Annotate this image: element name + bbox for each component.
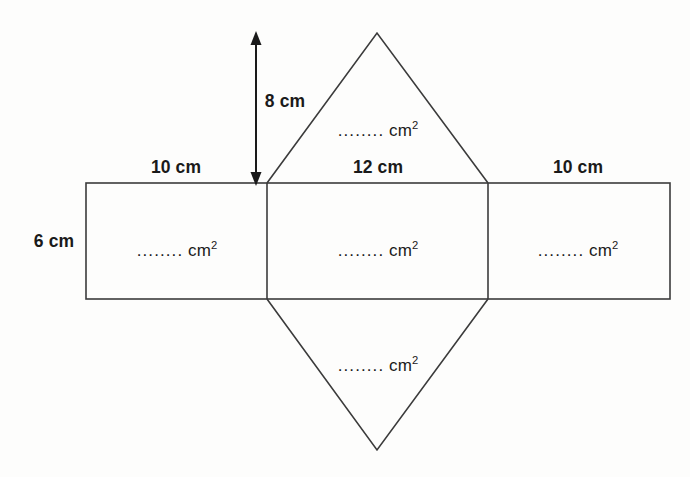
area-placeholder-right-rectangle: ........ cm2 xyxy=(538,242,619,259)
unit-left-rectangle: cm xyxy=(188,241,211,260)
label-middle-rectangle-width-12cm: 12 cm xyxy=(353,159,403,177)
area-placeholder-left-rectangle: ........ cm2 xyxy=(137,242,218,259)
label-right-rectangle-width-10cm: 10 cm xyxy=(553,159,603,177)
label-left-rectangle-width-10cm: 10 cm xyxy=(151,159,201,177)
dots-right-rectangle: ........ xyxy=(538,241,585,260)
height-dimension-arrow xyxy=(251,31,262,186)
exponent-middle-rectangle: 2 xyxy=(412,239,418,251)
diagram-canvas: 8 cm 10 cm 12 cm 10 cm 6 cm ........ cm2… xyxy=(0,0,690,477)
dots-top-triangle: ........ xyxy=(338,121,385,140)
area-placeholder-top-triangle: ........ cm2 xyxy=(338,122,419,139)
unit-bottom-triangle: cm xyxy=(389,356,412,375)
dots-left-rectangle: ........ xyxy=(137,241,184,260)
bottom-triangle-outline xyxy=(267,299,488,450)
exponent-right-rectangle: 2 xyxy=(612,239,618,251)
area-placeholder-bottom-triangle: ........ cm2 xyxy=(338,357,419,374)
exponent-bottom-triangle: 2 xyxy=(412,354,418,366)
exponent-top-triangle: 2 xyxy=(412,119,418,131)
dots-middle-rectangle: ........ xyxy=(338,241,385,260)
unit-right-rectangle: cm xyxy=(589,241,612,260)
exponent-left-rectangle: 2 xyxy=(211,239,217,251)
dots-bottom-triangle: ........ xyxy=(338,356,385,375)
unit-middle-rectangle: cm xyxy=(389,241,412,260)
unit-top-triangle: cm xyxy=(389,121,412,140)
label-rectangle-depth-6cm: 6 cm xyxy=(34,233,74,251)
label-height-8cm: 8 cm xyxy=(265,93,305,111)
prism-net-drawing xyxy=(0,0,690,477)
area-placeholder-middle-rectangle: ........ cm2 xyxy=(338,242,419,259)
